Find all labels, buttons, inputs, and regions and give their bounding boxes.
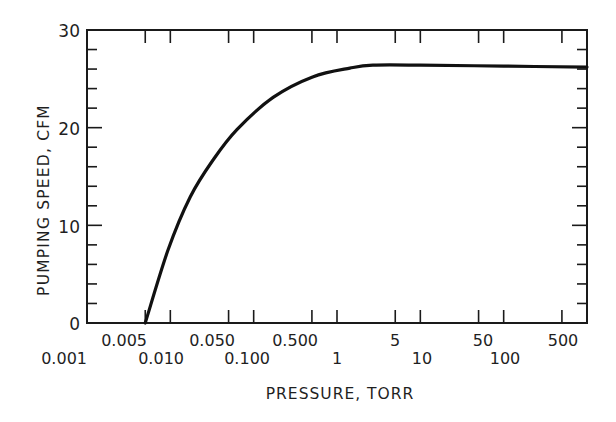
x-tick-label-0.001: 0.001 — [41, 349, 87, 368]
x-tick-label-5: 5 — [390, 331, 400, 350]
y-tick-label-0: 0 — [69, 314, 80, 334]
pumping-speed-chart: 0 10 20 30 PUMPING SPEED, CFM 0.005 0.05… — [0, 0, 616, 422]
x-tick-label-0.500: 0.500 — [272, 331, 318, 350]
x-tick-label-100: 100 — [490, 349, 521, 368]
y-axis-title: PUMPING SPEED, CFM — [35, 104, 53, 296]
x-tick-label-0.100: 0.100 — [224, 349, 270, 368]
x-tick-label-10: 10 — [412, 349, 432, 368]
y-tick-label-20: 20 — [58, 119, 80, 139]
x-tick-label-0.010: 0.010 — [138, 349, 184, 368]
plot-frame — [87, 30, 587, 323]
y-tick-label-10: 10 — [58, 217, 80, 237]
pumping-speed-curve — [145, 65, 587, 323]
x-axis-title: PRESSURE, TORR — [266, 385, 415, 403]
y-tick-label-30: 30 — [58, 21, 80, 41]
x-tick-label-500: 500 — [548, 331, 579, 350]
x-axis-ticks — [145, 30, 562, 323]
x-tick-label-0.050: 0.050 — [189, 331, 235, 350]
x-tick-label-0.005: 0.005 — [101, 331, 147, 350]
x-tick-label-50: 50 — [473, 331, 493, 350]
x-tick-label-1: 1 — [332, 349, 342, 368]
